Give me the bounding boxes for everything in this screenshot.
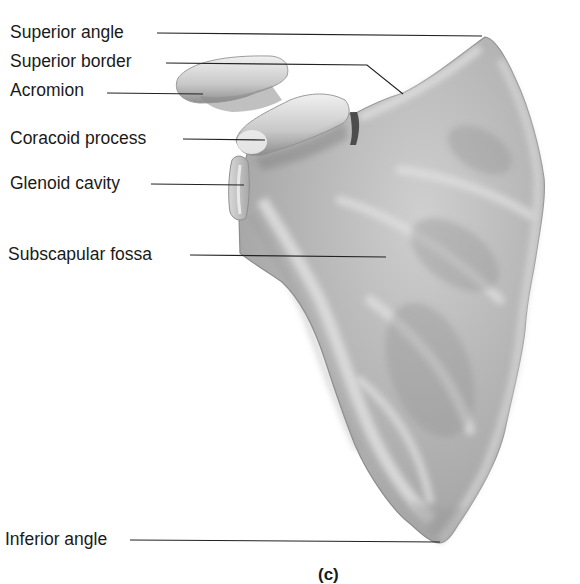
label-coracoid-process: Coracoid process — [10, 130, 146, 148]
label-inferior-angle: Inferior angle — [5, 531, 107, 549]
scapula-figure: Superior angle Superior border Acromion … — [0, 0, 580, 584]
label-subscapular-fossa: Subscapular fossa — [8, 246, 152, 264]
glenoid-cavity-shape — [229, 156, 250, 220]
leader-superior-angle — [157, 33, 482, 36]
label-acromion: Acromion — [10, 82, 84, 100]
leader-inferior-angle — [130, 540, 440, 542]
label-superior-angle: Superior angle — [10, 24, 124, 42]
figure-caption: (c) — [318, 566, 339, 583]
label-superior-border: Superior border — [10, 53, 132, 71]
label-glenoid-cavity: Glenoid cavity — [10, 175, 120, 193]
scapula-illustration — [0, 0, 580, 584]
